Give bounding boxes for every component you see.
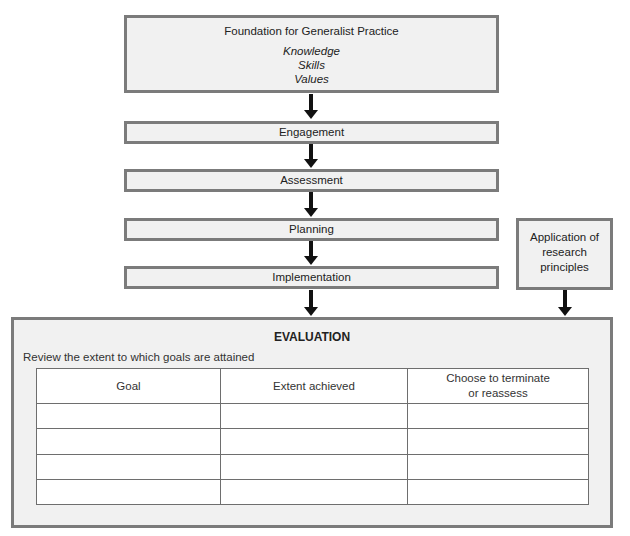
step-label: Assessment [280, 174, 343, 186]
table-cell [408, 429, 589, 454]
arrow-down-icon [304, 192, 318, 218]
foundation-item-skills: Skills [127, 58, 496, 72]
foundation-item-values: Values [127, 72, 496, 86]
evaluation-subtitle: Review the extent to which goals are att… [23, 351, 254, 363]
table-cell [37, 479, 221, 504]
table-cell [408, 479, 589, 504]
header-line: or reassess [408, 386, 588, 401]
table-header-row: Goal Extent achieved Choose to terminate… [37, 369, 589, 404]
table-cell [37, 404, 221, 429]
side-box-line: Application of [519, 230, 610, 245]
header-extent-achieved: Extent achieved [221, 369, 408, 404]
table-cell [221, 454, 408, 479]
table-cell [221, 429, 408, 454]
foundation-box: Foundation for Generalist Practice Knowl… [124, 15, 499, 93]
table-cell [37, 454, 221, 479]
step-engagement: Engagement [124, 121, 499, 144]
table-cell [408, 404, 589, 429]
arrow-down-icon [304, 94, 318, 120]
step-label: Engagement [279, 126, 344, 138]
evaluation-title: EVALUATION [14, 330, 610, 344]
step-assessment: Assessment [124, 169, 499, 192]
step-label: Planning [289, 223, 334, 235]
table-cell [221, 479, 408, 504]
table-cell [408, 454, 589, 479]
arrow-down-icon [304, 290, 318, 317]
table-cell [221, 404, 408, 429]
foundation-item-knowledge: Knowledge [127, 44, 496, 58]
arrow-down-icon [304, 241, 318, 266]
table-row [37, 429, 589, 454]
table-row [37, 404, 589, 429]
header-line: Choose to terminate [408, 371, 588, 386]
table-row [37, 479, 589, 504]
header-terminate-reassess: Choose to terminate or reassess [408, 369, 589, 404]
side-box-line: research [519, 245, 610, 260]
arrow-down-icon [304, 144, 318, 169]
foundation-title: Foundation for Generalist Practice [127, 23, 496, 39]
side-box-line: principles [519, 260, 610, 275]
step-label: Implementation [272, 271, 351, 283]
evaluation-table: Goal Extent achieved Choose to terminate… [36, 368, 589, 505]
step-planning: Planning [124, 218, 499, 241]
header-goal: Goal [37, 369, 221, 404]
arrow-down-icon [558, 290, 572, 317]
table-row [37, 454, 589, 479]
step-implementation: Implementation [124, 266, 499, 289]
table-cell [37, 429, 221, 454]
research-principles-box: Application of research principles [516, 218, 613, 290]
